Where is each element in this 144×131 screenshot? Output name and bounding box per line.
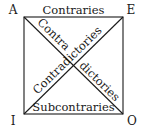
dictories-label: dictories <box>77 58 123 104</box>
contra-label: Contra <box>35 15 74 53</box>
square-of-opposition-diagram: A E I O Contraries Subcontraries Contra … <box>0 0 144 131</box>
contraries-label: Contraries <box>43 3 105 17</box>
corner-label-a: A <box>8 3 18 17</box>
subcontraries-label: Subcontraries <box>32 100 114 114</box>
corner-label-o: O <box>127 114 137 128</box>
corner-label-i: I <box>11 114 16 128</box>
corner-label-e: E <box>127 3 136 17</box>
